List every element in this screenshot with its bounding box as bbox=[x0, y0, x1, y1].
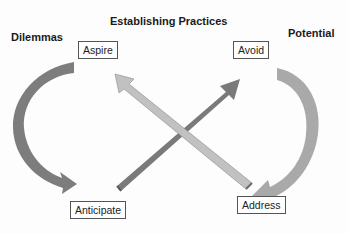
box-avoid: Avoid bbox=[233, 41, 269, 59]
box-address: Address bbox=[237, 196, 286, 214]
heading-potential: Potential bbox=[288, 27, 334, 39]
heading-dilemmas: Dilemmas bbox=[11, 31, 63, 43]
left-curved-arrow bbox=[13, 62, 77, 194]
right-curved-arrow bbox=[252, 68, 319, 204]
diagram-canvas: Dilemmas Establishing Practices Potentia… bbox=[0, 0, 348, 234]
heading-establishing-practices: Establishing Practices bbox=[110, 15, 227, 27]
box-aspire: Aspire bbox=[78, 41, 118, 59]
box-anticipate: Anticipate bbox=[70, 201, 126, 219]
